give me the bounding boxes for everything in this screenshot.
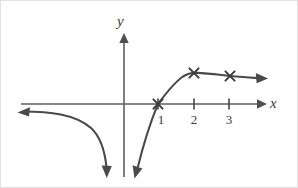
curve-right-branch	[158, 73, 268, 105]
tick-label-3: 3	[226, 112, 233, 127]
graph-figure: x y 1 2 3	[0, 0, 298, 188]
curve-middle-branch-path	[138, 105, 158, 168]
y-axis	[119, 33, 128, 177]
curve-middle-branch	[133, 105, 158, 179]
tick-label-1: 1	[158, 112, 165, 127]
curve-left-branch	[18, 107, 112, 178]
x-axis	[21, 99, 267, 109]
left-branch-left-arrowhead-icon	[18, 107, 31, 116]
right-branch-right-arrowhead-icon	[256, 73, 268, 83]
x-axis-label: x	[269, 95, 277, 111]
tick-label-2: 2	[191, 112, 198, 127]
x-axis-arrowhead-icon	[257, 99, 267, 109]
y-axis-label: y	[115, 13, 124, 29]
graph-canvas: x y 1 2 3	[1, 1, 298, 188]
y-axis-arrowhead-icon	[119, 33, 128, 43]
curve-left-branch-path	[23, 112, 107, 168]
middle-branch-down-arrowhead-icon	[133, 165, 143, 178]
left-branch-down-arrowhead-icon	[102, 166, 112, 178]
curve-right-branch-path	[158, 73, 258, 105]
